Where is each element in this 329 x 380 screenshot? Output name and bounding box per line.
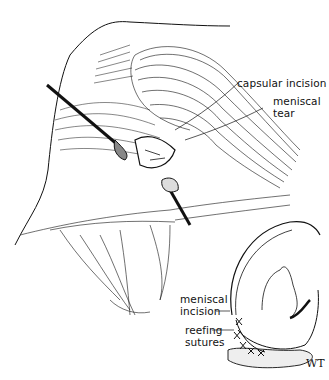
retractor-left: [47, 85, 118, 145]
artist-signature: WT: [306, 357, 325, 370]
thigh-outline: [70, 22, 230, 55]
lower-muscles: [20, 195, 290, 315]
leader-capsular: [175, 83, 238, 130]
label-inset-incision: incision: [180, 305, 221, 317]
inset-meniscus: [212, 222, 320, 368]
label-tear: tear: [273, 107, 295, 119]
joint-opening: [135, 137, 175, 168]
label-capsular-incision: capsular incision: [237, 77, 326, 89]
label-meniscal: meniscal: [273, 95, 321, 107]
label-inset-meniscal: meniscal: [180, 293, 228, 305]
label-inset-sutures: sutures: [185, 336, 225, 348]
label-inset-reefing: reefing: [185, 324, 223, 336]
surgical-illustration: [0, 0, 329, 380]
